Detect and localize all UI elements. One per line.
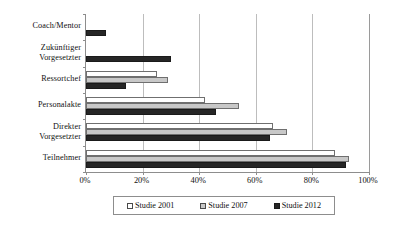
bar [86, 135, 270, 141]
bar-group [86, 93, 369, 119]
bar [86, 109, 216, 115]
category-label: Coach/Mentor [0, 21, 81, 30]
black-square-swatch [274, 203, 280, 209]
bar-group [86, 119, 369, 145]
x-axis-tick [199, 172, 200, 175]
gridline [369, 14, 370, 172]
gray-square-swatch [200, 203, 206, 209]
bar [86, 30, 106, 36]
category-label: Ressortchef [0, 74, 81, 83]
legend-label: Studie 2012 [282, 201, 321, 210]
legend-item[interactable]: Studie 2012 [274, 201, 321, 210]
x-axis-tick [86, 172, 87, 175]
white-square-swatch [127, 203, 133, 209]
category-label-line: Coach/Mentor [0, 21, 81, 30]
x-axis-label: 80% [291, 176, 331, 186]
category-label-line: Direkter [0, 122, 81, 131]
bar-chart-figure: Coach/MentorZukünftigerVorgesetzterResso… [0, 0, 398, 232]
category-label: ZukünftigerVorgesetzter [0, 43, 81, 62]
category-label-line: Personalakte [0, 100, 81, 109]
category-label: Teilnehmer [0, 153, 81, 162]
category-label-line: Zukünftiger [0, 43, 81, 52]
x-axis-tick [312, 172, 313, 175]
legend-label: Studie 2001 [135, 201, 174, 210]
x-axis-label: 60% [235, 176, 275, 186]
category-axis-labels: Coach/MentorZukünftigerVorgesetzterResso… [0, 14, 83, 172]
y-axis-tick [83, 172, 86, 173]
x-axis-label: 0% [65, 176, 105, 186]
category-label-line: Ressortchef [0, 74, 81, 83]
category-label-line: Teilnehmer [0, 153, 81, 162]
x-axis-tick [143, 172, 144, 175]
plot-area [85, 14, 369, 173]
legend-item[interactable]: Studie 2001 [127, 201, 174, 210]
bar [86, 56, 171, 62]
x-axis-tick [369, 172, 370, 175]
bar-group [86, 67, 369, 93]
category-label-line: Vorgesetzter [0, 132, 81, 141]
bar [86, 162, 346, 168]
bar-group [86, 146, 369, 172]
bar-group [86, 14, 369, 40]
category-label: Personalakte [0, 100, 81, 109]
legend-item[interactable]: Studie 2007 [200, 201, 247, 210]
bar-group [86, 40, 369, 66]
chart-legend: Studie 2001Studie 2007Studie 2012 [113, 196, 335, 215]
x-axis-label: 20% [122, 176, 162, 186]
value-axis-labels: 0%20%40%60%80%100% [0, 176, 398, 190]
x-axis-label: 100% [348, 176, 388, 186]
x-axis-tick [256, 172, 257, 175]
x-axis-label: 40% [178, 176, 218, 186]
legend-label: Studie 2007 [208, 201, 247, 210]
category-label-line: Vorgesetzter [0, 53, 81, 62]
bar [86, 83, 126, 89]
category-label: DirekterVorgesetzter [0, 122, 81, 141]
